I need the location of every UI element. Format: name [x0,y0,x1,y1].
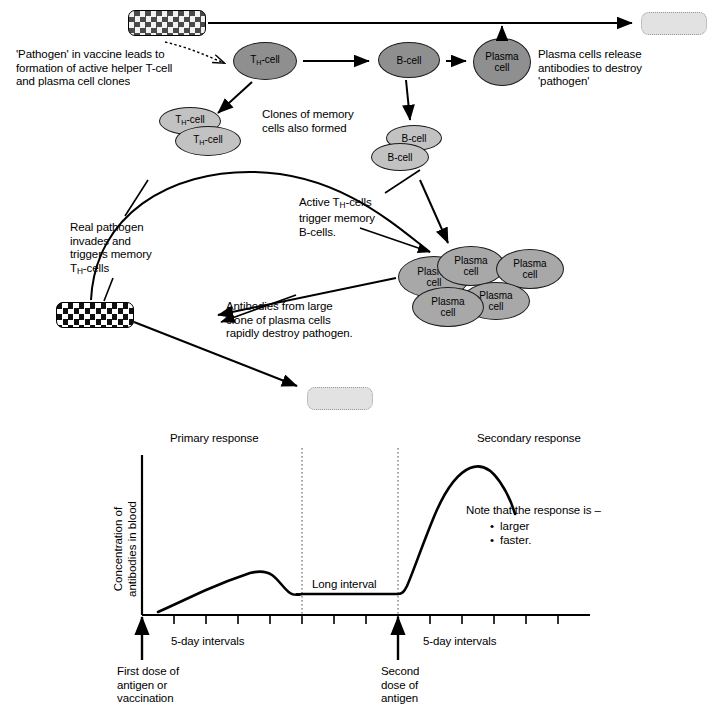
b-cell-active: B-cell [378,42,440,78]
plasma-clone-5-label: Plasmacell [431,296,464,318]
arrow-memory-b-to-plasma-clone [420,180,448,243]
active-th-trigger-text: Active TH-cellstrigger memoryB-cells. [299,196,419,239]
vaccine-note-text: 'Pathogen' in vaccine leads to formation… [16,48,226,89]
antibodies-note-text: Antibodies from large clone of plasma ce… [226,300,406,341]
plasma-cell-active: Plasmacell [473,38,531,86]
b-memory-2: B-cell [371,143,429,171]
memory-clones-text: Clones of memory cells also formed [262,108,392,135]
plasma-clone-5: Plasmacell [412,287,484,327]
b-cell-active-label: B-cell [396,55,421,66]
th-cell-active-label: TH-cell [250,54,280,68]
x-axis-label-secondary: 5-day intervals [423,635,496,649]
second-dose-label: Second dose of antigen [381,665,461,706]
plasma-clone-2-label: Plasmacell [454,255,487,277]
real-pathogen-icon [56,302,134,328]
note-heading: Note that the response is – [466,504,601,518]
plasma-cell-active-label: Plasmacell [485,51,518,73]
graph-phase-dividers [302,448,398,617]
note-bullet-larger: larger [486,519,531,533]
plasma-clone-3-label: Plasmacell [513,258,546,280]
arrow-b-to-memory-b [406,80,410,120]
graph-x-ticks [174,615,558,624]
note-bullets: larger faster. [486,519,531,547]
th-memory-2-label: TH-cell [193,134,223,148]
x-axis-label-primary: 5-day intervals [171,635,244,649]
th-memory-2: TH-cell [175,126,241,156]
vaccine-pathogen-icon [128,10,206,36]
plasma-clone-2: Plasmacell [437,246,505,286]
b-memory-1-label: B-cell [401,133,426,144]
destroyed-pathogen-box-top [641,12,707,35]
immune-response-figure: TH-cell B-cell Plasmacell TH-cell TH-cel… [0,0,720,718]
long-interval-label: Long interval [312,578,377,592]
first-dose-label: First dose of antigen or vaccination [117,665,237,706]
plasma-release-text: Plasma cells release antibodies to destr… [538,48,713,89]
primary-response-label: Primary response [170,432,259,446]
real-pathogen-note-text: Real pathogeninvades andtriggers memoryT… [70,221,190,278]
secondary-response-label: Secondary response [477,432,581,446]
note-bullet-faster: faster. [486,533,531,547]
th-cell-active: TH-cell [233,42,297,80]
destroyed-pathogen-box-bottom [307,387,373,410]
plasma-clone-4-label: Plasmacell [479,290,512,312]
b-memory-2-label: B-cell [387,152,412,163]
y-axis-label: Concentration of antibodies in blood [112,484,139,614]
